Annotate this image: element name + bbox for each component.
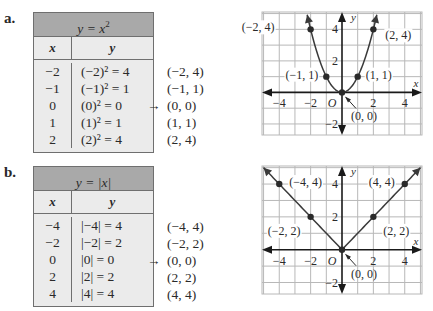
x-tick-label: 4 xyxy=(402,254,408,268)
cell-y: |−4| = 4 xyxy=(81,217,153,234)
col-header-y: y xyxy=(72,191,153,213)
curve-arrow-left-icon xyxy=(264,168,272,177)
ordered-pairs-a: (−2, 4)(−1, 1)(0, 0)→(1, 1)(2, 4) xyxy=(167,63,204,148)
point-label-background xyxy=(384,28,412,42)
origin-label: O xyxy=(328,96,337,110)
data-point xyxy=(370,26,376,32)
data-point xyxy=(370,214,376,220)
origin-label: O xyxy=(328,254,337,268)
ordered-pair: (−4, 4) xyxy=(167,218,204,235)
y-tick-label: 2 xyxy=(332,54,338,68)
point-label-background xyxy=(382,224,410,238)
data-point xyxy=(307,214,313,220)
x-tick-label: 2 xyxy=(370,254,376,268)
curve-arrow-right-icon xyxy=(412,168,420,177)
table-body: −4−2024 |−4| = 4|−2| = 2|0| = 0|2| = 2|4… xyxy=(34,214,153,306)
col-header-y: y xyxy=(72,37,153,59)
col-header-x: x xyxy=(34,37,72,59)
y-axis-arrow-down-icon xyxy=(338,125,346,135)
table-title-text: y = |x| xyxy=(76,175,111,190)
cell-y: (−2)² = 4 xyxy=(81,63,153,80)
plot-area xyxy=(262,166,422,294)
point-label-background xyxy=(285,68,320,82)
y-values: (−2)² = 4(−1)² = 1(0)² = 0(1)² = 1(2)² =… xyxy=(72,63,153,148)
cell-x: −2 xyxy=(45,63,59,80)
ordered-pair: (0, 0)→ xyxy=(167,252,204,269)
cell-x: 0 xyxy=(49,251,56,268)
curve-arrow-left-icon xyxy=(305,15,313,24)
cell-x: 4 xyxy=(49,285,56,302)
x-axis-arrow-left-icon xyxy=(262,88,272,96)
graph-b: xyO−4−22442−2(−4, 4)(−2, 2)(0, 0)(2, 2)(… xyxy=(262,165,422,294)
ordered-pair: (2, 2) xyxy=(167,269,204,286)
point-label-background xyxy=(365,68,393,82)
pointer-arrow-icon xyxy=(345,254,351,260)
point-label: (2, 4) xyxy=(385,28,411,42)
cell-x: 0 xyxy=(49,97,56,114)
y-axis-arrow-up-icon xyxy=(338,12,346,22)
table-header: x y xyxy=(34,37,153,60)
ordered-pair: (0, 0)→ xyxy=(167,97,204,114)
table-title-text: y = x xyxy=(77,21,105,36)
cell-y: |2| = 2 xyxy=(81,268,153,285)
pointer-line xyxy=(346,97,356,108)
x-values: −2−1012 xyxy=(34,63,72,148)
x-tick-label: −4 xyxy=(273,96,286,110)
right-arrow-icon: → xyxy=(147,252,161,269)
cell-x: −1 xyxy=(45,80,59,97)
point-label: (4, 4) xyxy=(369,175,395,189)
cell-y: |−2| = 2 xyxy=(81,234,153,251)
x-tick-label: 4 xyxy=(402,96,408,110)
col-header-x: x xyxy=(34,191,72,213)
cell-y: (1)² = 1 xyxy=(81,114,153,131)
table-a: y = x2 x y −2−1012 (−2)² = 4(−1)² = 1(0)… xyxy=(33,12,154,153)
point-label-background xyxy=(267,224,302,238)
data-point xyxy=(339,246,345,252)
data-point xyxy=(354,73,360,79)
y-tick-label: −2 xyxy=(325,117,338,131)
y-tick-label: 4 xyxy=(332,22,338,36)
y-values: |−4| = 4|−2| = 2|0| = 0|2| = 2|4| = 4 xyxy=(72,217,153,302)
point-label: (−4, 4) xyxy=(289,175,322,189)
data-point xyxy=(339,89,345,95)
cell-x: 2 xyxy=(49,268,56,285)
x-axis-label: x xyxy=(413,77,419,89)
table-title: y = |x| xyxy=(34,167,153,191)
y-axis-arrow-down-icon xyxy=(338,284,346,294)
y-tick-label: 2 xyxy=(332,210,338,224)
cell-y: |0| = 0 xyxy=(81,251,153,268)
cell-x: −2 xyxy=(45,234,59,251)
x-axis-arrow-right-icon xyxy=(412,88,422,96)
part-label-b: b. xyxy=(4,164,16,181)
cell-y: (0)² = 0 xyxy=(81,97,153,114)
data-point xyxy=(307,26,313,32)
cell-y: (−1)² = 1 xyxy=(81,80,153,97)
y-axis-label: y xyxy=(350,165,356,177)
x-axis-arrow-left-icon xyxy=(262,246,272,254)
x-axis-arrow-right-icon xyxy=(412,246,422,254)
ordered-pair: (4, 4) xyxy=(167,286,204,303)
graph-a: xyO−4−22442−2(−2, 4)(−1, 1)(0, 0)(1, 1)(… xyxy=(241,11,422,135)
function-curve xyxy=(307,15,377,93)
point-label: (0, 0) xyxy=(351,109,377,123)
data-point xyxy=(402,181,408,187)
x-tick-label: −2 xyxy=(304,254,317,268)
table-header: x y xyxy=(34,191,153,214)
x-tick-label: −2 xyxy=(304,96,317,110)
point-label: (2, 2) xyxy=(383,224,409,238)
cell-y: (2)² = 4 xyxy=(81,131,153,148)
data-point xyxy=(323,73,329,79)
ordered-pairs-b: (−4, 4)(−2, 2)(0, 0)→(2, 2)(4, 4) xyxy=(167,218,204,303)
point-label: (1, 1) xyxy=(366,68,392,82)
ordered-pair: (−1, 1) xyxy=(167,80,204,97)
y-tick-label: 4 xyxy=(332,177,338,191)
cell-x: −4 xyxy=(45,217,59,234)
cell-y: |4| = 4 xyxy=(81,285,153,302)
table-b: y = |x| x y −4−2024 |−4| = 4|−2| = 2|0| … xyxy=(33,166,154,307)
right-arrow-icon: → xyxy=(147,97,161,114)
point-label-background xyxy=(368,175,396,189)
ordered-pair: (2, 4) xyxy=(167,131,204,148)
ordered-pair: (−2, 2) xyxy=(167,235,204,252)
cell-x: 1 xyxy=(49,114,56,131)
cell-x: 2 xyxy=(49,131,56,148)
